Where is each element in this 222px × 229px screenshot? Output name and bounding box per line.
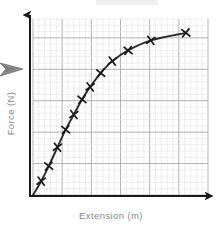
graph-plot-area <box>0 0 222 229</box>
force-extension-figure: Extension (m) Force (N) <box>0 0 222 229</box>
x-axis-label: Extension (m) <box>0 210 222 221</box>
y-axis-label: Force (N) <box>5 84 16 144</box>
